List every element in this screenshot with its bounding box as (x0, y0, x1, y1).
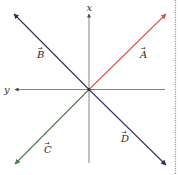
vector-C-label: C (44, 144, 52, 155)
y-axis-label: y (3, 84, 10, 95)
vector-A-arrow (89, 14, 166, 90)
vector-D-arrow (89, 90, 166, 166)
x-axis-label: x (87, 2, 93, 13)
vector-D-label-group: → D (120, 128, 129, 144)
vector-A-label: A (139, 49, 147, 60)
vector-D-label: D (120, 133, 129, 144)
vector-diagram: x y → B → A → C → D (0, 0, 178, 175)
vector-B-label-group: → B (36, 44, 44, 60)
vector-B-arrow (14, 14, 89, 90)
vector-C-arrow (15, 90, 89, 165)
vector-B-label: B (36, 49, 44, 60)
vector-A-label-group: → A (139, 44, 147, 60)
origin-point (88, 88, 91, 91)
vector-C-label-group: → C (44, 139, 52, 155)
